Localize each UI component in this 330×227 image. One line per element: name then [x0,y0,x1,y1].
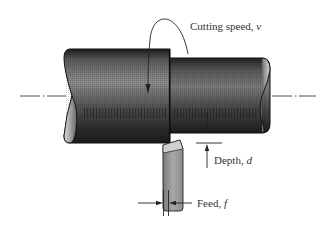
turning-diagram: Cutting speed, v Depth, d Feed, f [0,0,330,227]
workpiece-large-section [64,49,170,143]
feed-label: Feed, f [197,197,229,209]
workpiece-small-section [166,58,270,133]
depth-label: Depth, d [214,154,252,166]
cutting-tool [163,140,183,211]
cutting-speed-label: Cutting speed, v [190,20,261,32]
